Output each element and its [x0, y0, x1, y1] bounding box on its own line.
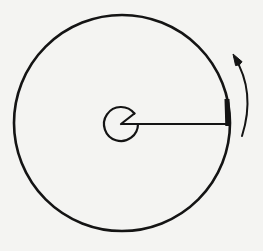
hub-wedge-edge: [121, 114, 134, 125]
mechanics-diagram: [0, 0, 263, 251]
rotation-arrow-head-icon: [233, 54, 242, 66]
rotation-arrow-shaft: [235, 57, 248, 136]
rim-marker: [227, 99, 228, 126]
diagram-canvas: Rotating disk with hub and rotation dire…: [0, 0, 263, 251]
